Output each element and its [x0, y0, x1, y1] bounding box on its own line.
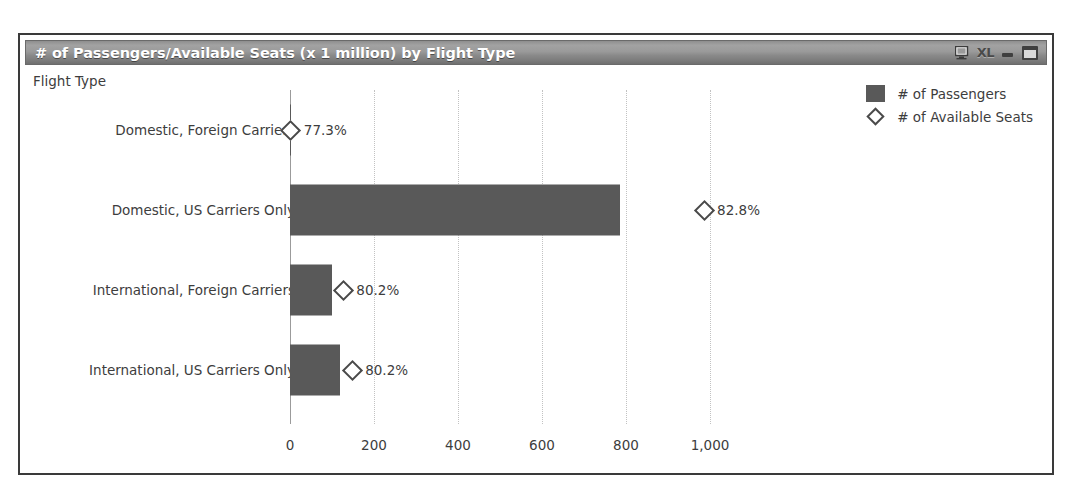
marker-available-seats[interactable] [342, 359, 363, 380]
x-tick-label: 0 [286, 437, 295, 453]
window-titlebar[interactable]: # of Passengers/Available Seats (x 1 mil… [25, 40, 1047, 65]
chart-window-screenshot: # of Passengers/Available Seats (x 1 mil… [0, 0, 1073, 497]
x-tick-label: 800 [613, 437, 639, 453]
chart-row: International, US Carriers Only80.2% [25, 330, 1047, 410]
y-axis-title: Flight Type [33, 73, 106, 89]
xl-label-icon[interactable]: XL [977, 45, 994, 60]
marker-available-seats[interactable] [333, 279, 354, 300]
legend-item-passengers[interactable]: # of Passengers [864, 83, 1033, 104]
maximize-icon[interactable] [1022, 46, 1038, 60]
bar-passengers[interactable] [290, 345, 340, 396]
chart-window: # of Passengers/Available Seats (x 1 mil… [18, 33, 1054, 475]
legend-label-passengers: # of Passengers [897, 86, 1006, 102]
chart-legend: # of Passengers # of Available Seats [864, 83, 1033, 127]
x-tick-label: 600 [529, 437, 555, 453]
legend-label-available-seats: # of Available Seats [897, 109, 1033, 125]
minimize-icon[interactable] [1001, 47, 1015, 59]
legend-diamond-swatch-icon [864, 110, 887, 123]
category-label: Domestic, US Carriers Only [33, 202, 295, 218]
data-label: 80.2% [365, 362, 408, 378]
category-label: International, US Carriers Only [33, 362, 295, 378]
x-tick-label: 400 [445, 437, 471, 453]
chart-row: International, Foreign Carriers80.2% [25, 250, 1047, 330]
chart-row: Domestic, US Carriers Only82.8% [25, 170, 1047, 250]
marker-available-seats[interactable] [694, 199, 715, 220]
monitor-icon[interactable] [955, 46, 970, 60]
data-label: 77.3% [304, 122, 347, 138]
legend-square-swatch-icon [864, 85, 887, 102]
window-title: # of Passengers/Available Seats (x 1 mil… [35, 45, 515, 61]
x-tick-label: 200 [361, 437, 387, 453]
titlebar-controls: XL [955, 45, 1042, 60]
category-label: International, Foreign Carriers [33, 282, 295, 298]
x-tick-label: 1,000 [691, 437, 730, 453]
bar-passengers[interactable] [290, 265, 332, 316]
bar-passengers[interactable] [290, 185, 620, 236]
data-label: 82.8% [717, 202, 760, 218]
category-label: Domestic, Foreign Carriers [33, 122, 295, 138]
legend-item-available-seats[interactable]: # of Available Seats [864, 106, 1033, 127]
data-label: 80.2% [356, 282, 399, 298]
chart-plot-area: Flight Type Domestic, Foreign Carriers77… [25, 67, 1047, 469]
